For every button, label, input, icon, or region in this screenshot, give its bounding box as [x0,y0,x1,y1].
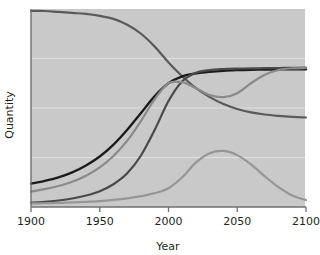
x-tick-label: 2050 [223,215,251,228]
line-chart: 19001950200020502100 Year Quantity [0,0,320,255]
chart-figure: 19001950200020502100 Year Quantity [0,0,320,255]
x-tick-label: 2000 [155,215,183,228]
x-axis-ticks: 19001950200020502100 [17,207,320,228]
x-axis-title: Year [155,240,180,253]
x-tick-label: 1900 [17,215,45,228]
x-tick-label: 1950 [86,215,114,228]
x-tick-label: 2100 [292,215,320,228]
y-axis-title: Quantity [3,91,16,139]
